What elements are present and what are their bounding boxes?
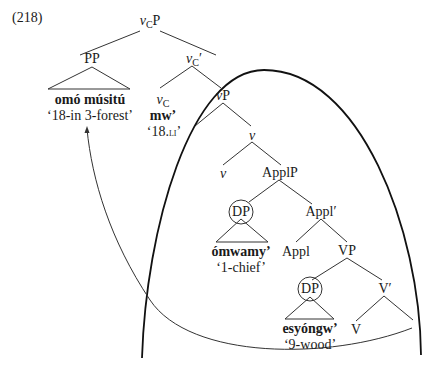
- branch-vp-spec: [195, 103, 223, 126]
- branch-Vbar-empty: [384, 296, 413, 320]
- pp-triangle: [48, 67, 130, 89]
- dp1-triangle: [216, 219, 268, 242]
- node-vc-bar: vC′: [186, 51, 202, 71]
- node-V-head: V: [351, 322, 361, 338]
- dp2-gloss: ‘9-wood’: [284, 337, 336, 353]
- node-appl-head: Appl: [282, 244, 310, 260]
- dp2-form: esyóngw’: [282, 321, 337, 337]
- node-pp: PP: [84, 51, 100, 67]
- node-dp1: DP: [232, 204, 250, 220]
- branch-vp-vbar: [223, 103, 251, 126]
- branch-vbar-v: [223, 142, 252, 165]
- dp1-gloss: ‘1-chief’: [216, 260, 266, 276]
- branch-applp-dp: [249, 180, 279, 202]
- node-vcp: vCP: [140, 13, 161, 33]
- vc-gloss: ‘18.li’: [147, 124, 181, 140]
- branch-Vbar-V: [356, 296, 384, 321]
- pp-gloss: ‘18-in 3-forest’: [47, 108, 133, 124]
- dp1-form: ómwamy’: [211, 244, 270, 260]
- arrowhead-icon: [85, 126, 90, 133]
- node-V-bar: V′: [378, 281, 391, 297]
- node-dp2: DP: [301, 281, 319, 297]
- branch-applbar-appl: [296, 219, 321, 242]
- dp2-triangle: [285, 297, 334, 319]
- branch-applbar-vp: [321, 219, 347, 242]
- branch-vp-dp2: [312, 258, 347, 280]
- branch-vbar-applp: [252, 142, 281, 165]
- example-number: (218): [12, 10, 42, 26]
- phase-boundary-arc: [142, 70, 421, 358]
- node-applp: ApplP: [262, 165, 298, 181]
- syntax-tree-lines: [0, 0, 435, 371]
- pp-form: omó músitú: [55, 92, 125, 108]
- node-appl-bar: Appl′: [305, 204, 336, 220]
- node-v-bar: v: [249, 128, 255, 144]
- node-vp-lower: VP: [338, 243, 356, 259]
- node-v-head: v: [220, 166, 226, 182]
- branch-vp-vbar2: [347, 258, 382, 280]
- vc-form: mw’: [150, 108, 176, 124]
- movement-arrow: [87, 129, 412, 349]
- node-vp: vP: [216, 88, 230, 104]
- branch-applp-applbar: [279, 180, 312, 204]
